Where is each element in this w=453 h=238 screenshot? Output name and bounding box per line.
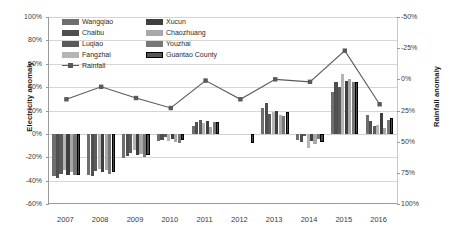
- y-axis-left-tick-label: 0%: [8, 130, 42, 137]
- x-axis-tick-label: 2016: [359, 215, 399, 224]
- legend-swatch-icon: [62, 52, 79, 58]
- legend-item[interactable]: Xucun: [146, 18, 247, 25]
- y2-tick-mark: [397, 111, 400, 112]
- rainfall-marker: [238, 97, 242, 101]
- y-axis-right-tick-label: 25%: [401, 107, 435, 114]
- legend-label: Xucun: [166, 18, 186, 25]
- legend-label: Fangzhai: [82, 51, 111, 58]
- y-axis-right-title: Rainfall anomaly: [432, 42, 441, 152]
- legend-item[interactable]: Chaibu: [62, 29, 146, 36]
- y-axis-left-tick-label: -40%: [8, 177, 42, 184]
- y-axis-right-tick-label: 50%: [401, 138, 435, 145]
- legend-swatch-icon: [146, 19, 163, 25]
- y-axis-left-tick-label: 80%: [8, 36, 42, 43]
- y-axis-left-tick-label: 60%: [8, 60, 42, 67]
- y2-tick-mark: [397, 173, 400, 174]
- legend-swatch-icon: [146, 52, 163, 58]
- legend-swatch-icon: [62, 30, 79, 36]
- legend: WangqiaoXucunChaibuChaozhuangLuqiaoYouzh…: [62, 16, 247, 71]
- rainfall-marker: [273, 77, 277, 81]
- x-axis-line: [49, 203, 397, 204]
- y-axis-left-tick-label: -60%: [8, 200, 42, 207]
- legend-label: Rainfall: [82, 62, 105, 69]
- legend-item[interactable]: Luqiao: [62, 40, 146, 47]
- legend-line-marker-icon: [62, 63, 79, 69]
- rainfall-marker: [203, 78, 207, 82]
- y2-tick-mark: [397, 79, 400, 80]
- y2-tick-mark: [397, 48, 400, 49]
- legend-label: Chaozhuang: [166, 29, 206, 36]
- y-axis-right-tick-label: -50%: [401, 13, 435, 20]
- rainfall-marker: [377, 102, 381, 106]
- rainfall-marker: [99, 85, 103, 89]
- y-axis-left-tick-label: 20%: [8, 107, 42, 114]
- legend-item[interactable]: Guantao County: [146, 51, 247, 58]
- y2-tick-mark: [397, 204, 400, 205]
- legend-item[interactable]: Chaozhuang: [146, 29, 247, 36]
- legend-swatch-icon: [62, 19, 79, 25]
- legend-swatch-icon: [146, 41, 163, 47]
- y-axis-left-tick-label: 40%: [8, 83, 42, 90]
- legend-swatch-icon: [146, 30, 163, 36]
- rainfall-marker: [169, 106, 173, 110]
- y-axis-left-tick-label: -20%: [8, 153, 42, 160]
- legend-item[interactable]: Fangzhai: [62, 51, 146, 58]
- rainfall-marker: [343, 48, 347, 52]
- legend-item[interactable]: Wangqiao: [62, 18, 146, 25]
- y-axis-right-tick-label: 75%: [401, 169, 435, 176]
- rainfall-marker: [64, 97, 68, 101]
- y2-tick-mark: [397, 17, 400, 18]
- legend-item[interactable]: Youzhai: [146, 40, 247, 47]
- legend-label: Luqiao: [82, 40, 103, 47]
- legend-label: Youzhai: [166, 40, 191, 47]
- legend-label: Chaibu: [82, 29, 104, 36]
- chart-container: Electricity anomaly Rainfall anomaly 100…: [0, 0, 453, 238]
- y2-tick-mark: [397, 142, 400, 143]
- legend-item[interactable]: Rainfall: [62, 62, 146, 69]
- y-tick-mark: [46, 204, 49, 205]
- rainfall-marker: [134, 96, 138, 100]
- legend-label: Wangqiao: [82, 18, 113, 25]
- y-axis-right-tick-label: 0%: [401, 75, 435, 82]
- y-axis-right-tick-label: -25%: [401, 44, 435, 51]
- y-axis-right-tick-label: 100%: [401, 200, 435, 207]
- rainfall-marker: [308, 80, 312, 84]
- legend-swatch-icon: [62, 41, 79, 47]
- legend-label: Guantao County: [166, 51, 217, 58]
- y-axis-left-tick-label: 100%: [8, 13, 42, 20]
